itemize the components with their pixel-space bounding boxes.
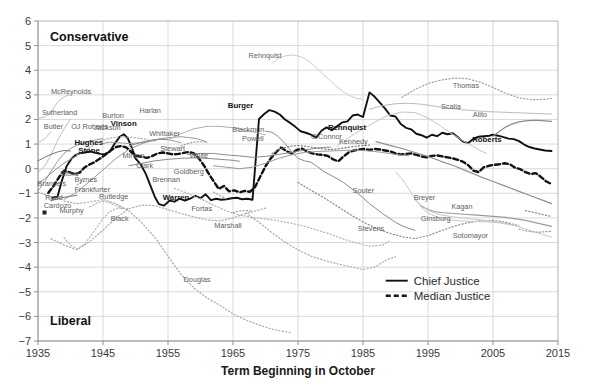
justice-label-burton: Burton (102, 111, 124, 120)
legend: Chief JusticeMedian Justice (386, 275, 491, 302)
y-tick-label: 4 (25, 64, 31, 76)
series-line-burton (103, 139, 181, 143)
y-tick-label: −2 (18, 212, 31, 224)
justice-label-roberts: Roberts (472, 135, 502, 144)
y-tick-label: 5 (25, 40, 31, 52)
justice-label-hughes: Hughes (74, 138, 103, 147)
justice-label-scalia: Scalia (441, 102, 462, 111)
justice-label-burger: Burger (228, 101, 254, 110)
series-line-douglas (64, 199, 292, 332)
justice-label-o-connor: O'Connor (311, 132, 343, 141)
liberal-label: Liberal (50, 314, 91, 328)
justice-label-black: Black (111, 214, 129, 223)
series-line-marshall (246, 213, 396, 270)
justice-label-fortas: Fortas (191, 204, 212, 213)
series-markers (43, 211, 47, 215)
y-tick-label: −7 (18, 335, 31, 347)
series-line-kagan (526, 211, 552, 217)
justice-label-clark: Clark (136, 161, 153, 170)
justice-label-brandeis: Brandeis (37, 179, 66, 188)
justice-label-white: White (189, 151, 208, 160)
series-line-rehnquist-assoc (272, 55, 363, 99)
justice-label-breyer: Breyer (414, 193, 436, 202)
x-axis-title: Term Beginning in October (221, 364, 375, 378)
justice-label-souter: Souter (353, 186, 375, 195)
justice-label-rehnquist: Rehnquist (328, 123, 367, 132)
justice-label-stevens: Stevens (358, 224, 385, 233)
justice-label-stone: Stone (78, 146, 100, 155)
y-tick-label: −5 (18, 286, 31, 298)
series-line-alito (493, 120, 552, 136)
series-line-oconnor (337, 112, 487, 153)
y-tick-label: 2 (25, 113, 31, 125)
legend-label-1: Median Justice (414, 290, 491, 302)
x-tick-label: 2005 (481, 347, 505, 359)
y-tick-label: −6 (18, 310, 31, 322)
justice-labels: McReynoldsSutherlandButlerOJ RobertsJack… (37, 51, 502, 284)
x-tick-label: 1965 (221, 347, 245, 359)
justice-label-rutledge: Rutledge (99, 192, 128, 201)
justice-label-blackmun: Blackmun (232, 125, 264, 134)
justice-label-butler: Butler (44, 122, 64, 131)
x-tick-label: 1955 (156, 347, 180, 359)
x-tick-label: 1985 (351, 347, 375, 359)
x-tick-label: 1945 (91, 347, 115, 359)
series-line-sutherland (38, 132, 51, 143)
y-tick-label: 0 (25, 163, 31, 175)
legend-label-0: Chief Justice (414, 275, 480, 287)
justice-label-murphy: Murphy (59, 206, 84, 215)
x-tick-label: 1995 (416, 347, 440, 359)
justice-label-whittaker: Whittaker (149, 129, 180, 138)
justice-label-alito: Alito (473, 110, 487, 119)
x-tick-label: 1975 (286, 347, 310, 359)
x-tick-label: 1935 (26, 347, 50, 359)
justice-label-vinson: Vinson (111, 119, 137, 128)
justice-label-kagan: Kagan (451, 202, 472, 211)
justice-label-ginsburg: Ginsburg (421, 214, 451, 223)
justice-label-warren: Warren (163, 193, 190, 202)
conservative-label: Conservative (50, 30, 129, 44)
justice-label-stewart: Stewart (160, 144, 185, 153)
series-line-brennan (175, 188, 390, 246)
y-tick-label: 6 (25, 15, 31, 27)
justice-label-rehnquist: Rehnquist (249, 51, 282, 60)
justice-label-douglas: Douglas (184, 275, 211, 284)
justice-label-sotomayor: Sotomayor (453, 231, 489, 240)
justice-label-brennan: Brennan (152, 175, 180, 184)
justice-label-thomas: Thomas (453, 81, 480, 90)
marker-Cardozo-marker (43, 211, 47, 215)
chart-root: 6543210−1−2−3−4−5−6−71935194519551965197… (0, 0, 593, 387)
justice-label-marshall: Marshall (214, 221, 242, 230)
x-tick-label: 2015 (546, 347, 570, 359)
y-tick-label: 3 (25, 89, 31, 101)
justice-label-mcreynolds: McReynolds (51, 87, 91, 96)
y-tick-label: −3 (18, 237, 31, 249)
supreme-court-ideology-chart: 6543210−1−2−3−4−5−6−71935194519551965197… (0, 0, 593, 387)
y-tick-label: −1 (18, 187, 31, 199)
series-line-sotomayor (519, 229, 552, 232)
justice-label-byrnes: Byrnes (74, 175, 97, 184)
justice-label-sutherland: Sutherland (42, 108, 77, 117)
y-tick-label: −4 (18, 261, 31, 273)
justice-label-minton: Minton (123, 151, 145, 160)
justice-label-powell: Powell (242, 134, 264, 143)
y-tick-label: 1 (25, 138, 31, 150)
justice-label-kennedy: Kennedy (339, 137, 368, 146)
justice-label-harlan: Harlan (139, 106, 161, 115)
